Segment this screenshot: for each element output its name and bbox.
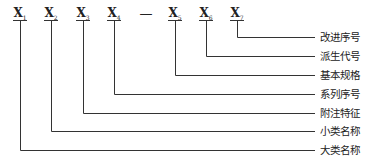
label-improvement-number: 改进序号 [320, 31, 360, 43]
separator-dash: — [140, 6, 153, 21]
code-subscript: 7 [240, 14, 244, 21]
code-subscript: 6 [209, 14, 213, 21]
label-note-feature: 附注特征 [320, 107, 360, 119]
label-series-number: 系列序号 [320, 88, 360, 100]
code-base: X [44, 6, 53, 20]
code-base: X [107, 6, 116, 20]
connector-lines [0, 0, 371, 164]
code-base: X [199, 6, 208, 20]
code-subscript: 1 [23, 14, 27, 21]
code-x2: X2 [44, 6, 57, 21]
code-subscript: 5 [178, 14, 182, 21]
code-base: X [230, 6, 239, 20]
code-x6: X6 [199, 6, 212, 21]
code-x5: X5 [168, 6, 181, 21]
code-base: X [13, 6, 22, 20]
code-subscript: 3 [86, 14, 90, 21]
label-category-name: 大类名称 [320, 144, 360, 156]
code-base: X [76, 6, 85, 20]
code-x4: X4 [107, 6, 120, 21]
code-base: X [168, 6, 177, 20]
label-derivative-code: 派生代号 [320, 50, 360, 62]
code-x3: X3 [76, 6, 89, 21]
label-subcategory-name: 小类名称 [320, 125, 360, 137]
code-x1: X1 [13, 6, 26, 21]
code-x7: X7 [230, 6, 243, 21]
code-subscript: 4 [117, 14, 121, 21]
code-subscript: 2 [54, 14, 58, 21]
label-basic-spec: 基本规格 [320, 69, 360, 81]
